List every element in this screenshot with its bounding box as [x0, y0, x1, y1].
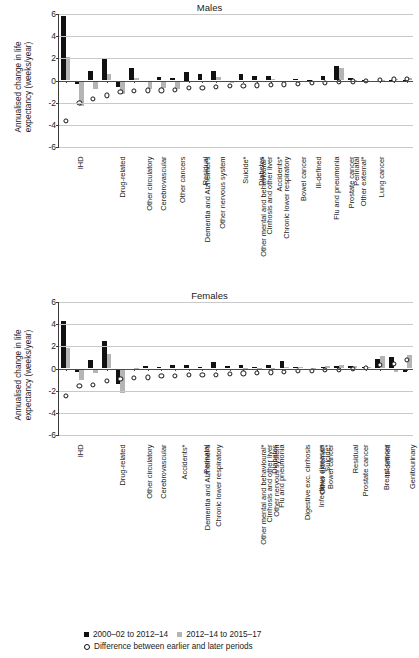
x-axis-label: Other circulatory [145, 445, 154, 499]
figure-root: Males Annualised change in life expectan… [0, 0, 419, 658]
x-axis-label: Suicide* [241, 157, 250, 184]
x-axis-label: Lung cancer [377, 157, 386, 198]
x-axis-label: Bowel cancer [299, 157, 308, 201]
legend-swatch-early [84, 632, 89, 637]
panel-females: Females Annualised change in life expect… [0, 288, 419, 608]
x-axis-label: Residual [201, 157, 210, 186]
x-axis-label: Diabetes [256, 157, 265, 186]
legend: 2000–02 to 2012–14 2012–14 to 2015–17 Di… [84, 630, 414, 654]
x-axis-label: Other circulatory [145, 157, 154, 211]
x-axis-label: Suicide* [323, 445, 332, 472]
legend-row-periods: 2000–02 to 2012–14 2012–14 to 2015–17 [84, 630, 414, 639]
legend-label-late: 2012–14 to 2015–17 [186, 630, 261, 639]
gridline [59, 147, 413, 148]
x-axis-label: Diabetes [270, 445, 279, 474]
legend-label-difference: Difference between earlier and later per… [94, 642, 253, 651]
x-axis-label: Genitourinary [408, 445, 417, 489]
x-axis-label: IHD [76, 157, 85, 170]
x-axis-label: Drug-related [118, 157, 127, 198]
x-axis-label: Accidents* [180, 445, 189, 480]
x-axis-label: Drug-related [118, 445, 127, 486]
y-tick-label: -6 [48, 430, 56, 440]
x-axis-label: Other nervous system [218, 157, 227, 229]
x-axis-label: Flu and pneumonia [331, 157, 340, 220]
x-axis-label: IHD [76, 445, 85, 458]
legend-label-early: 2000–02 to 2012–14 [93, 630, 168, 639]
x-axis-label: Ill-defined [382, 445, 391, 477]
y-tick-mark [56, 147, 59, 148]
x-axis-label: Cerebrovascular [159, 445, 168, 499]
y-tick-label: -6 [48, 142, 56, 152]
gridline [59, 435, 413, 436]
legend-swatch-late [177, 632, 182, 637]
panel-males: Males Annualised change in life expectan… [0, 0, 419, 290]
x-axis-label: Cerebrovascular [159, 157, 168, 211]
legend-row-difference: Difference between earlier and later per… [84, 642, 414, 651]
x-axis-label: Chronic lower respiratory [214, 445, 223, 527]
x-axis-label: Digestive exc. cirrhosis [303, 445, 312, 521]
legend-swatch-difference [84, 644, 90, 650]
x-axis-label: Prostate cancer [361, 445, 370, 497]
x-axis-label: Accidents* [276, 157, 285, 192]
x-axis-label: Ill-defined [314, 157, 323, 189]
x-axis-label: Perinatal [202, 445, 211, 474]
x-axis-label: Residual [352, 445, 361, 474]
y-tick-mark [56, 435, 59, 436]
x-axis-labels-males: IHDDrug-relatedOther circulatoryCerebrov… [0, 0, 419, 130]
x-axis-label: Perinatal [352, 157, 361, 186]
x-axis-labels-females: IHDDrug-relatedOther circulatoryCerebrov… [0, 288, 419, 418]
x-axis-label: Other cancers [178, 157, 187, 203]
